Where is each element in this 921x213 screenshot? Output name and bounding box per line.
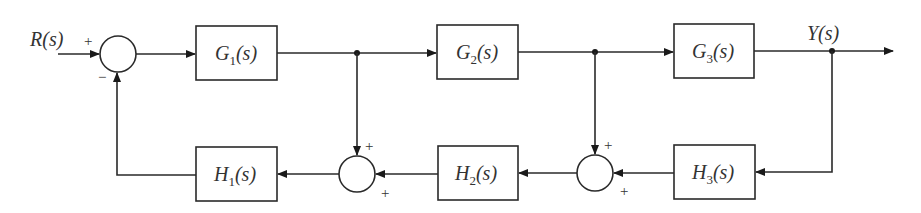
output-label: Y(s)	[807, 22, 840, 45]
sum3-top-plus-sign: +	[604, 137, 612, 153]
sum2-right-plus-sign: +	[381, 185, 389, 201]
block-g2: G2(s)	[437, 25, 518, 79]
block-h3: H3(s)	[674, 145, 755, 199]
sum1-plus-sign: +	[84, 33, 92, 49]
input-signal: R(s) +	[29, 28, 99, 54]
sum3-right-plus-sign: +	[620, 183, 628, 199]
block-g3: G3(s)	[674, 24, 754, 78]
block-g1: G1(s)	[196, 26, 277, 80]
output-to-h3-path	[756, 51, 832, 172]
block-diagram: R(s) + − G1(s) G2(s) G3(s) Y(s) H3(s)	[0, 0, 921, 213]
block-h2: H2(s)	[438, 146, 518, 200]
sum2-top-plus-sign: +	[365, 138, 373, 154]
sum1-minus-sign: −	[98, 69, 106, 85]
input-label: R(s)	[29, 28, 64, 51]
block-h1: H1(s)	[196, 147, 277, 201]
summing-junction-2	[339, 156, 375, 192]
h1-to-s1-feedback-path	[117, 73, 196, 175]
summing-junction-1	[100, 36, 136, 72]
summing-junction-3	[577, 155, 613, 191]
